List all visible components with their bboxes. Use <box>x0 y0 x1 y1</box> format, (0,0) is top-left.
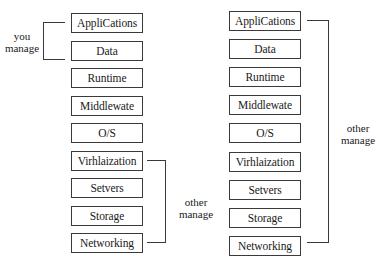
left-layer-servers: Setvers <box>71 178 143 198</box>
left-layer-networking: Networking <box>71 233 143 253</box>
layer-label: Middlewate <box>238 99 292 111</box>
you-manage-bracket-top <box>43 22 65 23</box>
left-other-manage-bracket-top <box>147 160 166 161</box>
right-layer-networking: Networking <box>229 236 301 256</box>
right-other-manage-bracket-bottom <box>307 242 329 243</box>
left-other-manage-bracket-spine <box>165 160 166 243</box>
layer-label: Virhlaization <box>78 155 137 167</box>
right-layer-virtualization: Virhlaization <box>229 152 301 172</box>
layer-label: Runtime <box>88 72 127 84</box>
layer-label: Virhlaization <box>236 156 295 168</box>
you-manage-bracket-spine <box>43 22 44 60</box>
left-other-manage-label-line1: other <box>173 196 219 208</box>
you-manage-bracket-bottom <box>43 59 65 60</box>
right-other-manage-label-line2: manage <box>336 134 380 146</box>
left-layer-data: Data <box>71 41 143 61</box>
right-other-manage-bracket-spine <box>328 20 329 243</box>
layer-label: AppliCations <box>235 15 295 27</box>
you-manage-label: you manage <box>2 30 42 54</box>
layer-label: Runtime <box>246 71 285 83</box>
layer-label: Networking <box>238 240 292 252</box>
right-layer-middleware: Middlewate <box>229 95 301 115</box>
layer-label: Data <box>254 43 275 55</box>
layer-label: Storage <box>248 212 282 224</box>
you-manage-label-line2: manage <box>2 42 42 54</box>
left-layer-runtime: Runtime <box>71 68 143 88</box>
right-other-manage-label-line1: other <box>336 122 380 134</box>
left-layer-middleware: Middlewate <box>71 96 143 116</box>
right-layer-applications: AppliCations <box>229 11 301 31</box>
layer-label: O/S <box>98 127 116 139</box>
layer-label: Middlewate <box>80 100 134 112</box>
layer-label: AppliCations <box>77 17 137 29</box>
layer-label: Storage <box>90 210 124 222</box>
layer-label: Data <box>96 45 117 57</box>
left-layer-storage: Storage <box>71 206 143 226</box>
right-other-manage-bracket-top <box>307 20 329 21</box>
right-other-manage-label: other manage <box>336 122 380 146</box>
layer-label: O/S <box>256 127 274 139</box>
right-layer-os: O/S <box>229 123 301 143</box>
left-layer-os: O/S <box>71 123 143 143</box>
left-other-manage-bracket-bottom <box>147 242 166 243</box>
left-other-manage-label-line2: manage <box>173 208 219 220</box>
right-layer-data: Data <box>229 39 301 59</box>
layer-label: Networking <box>80 237 134 249</box>
layer-label: Setvers <box>248 184 281 196</box>
right-layer-servers: Setvers <box>229 180 301 200</box>
right-layer-runtime: Runtime <box>229 67 301 87</box>
left-layer-applications: AppliCations <box>71 13 143 33</box>
left-other-manage-label: other manage <box>173 196 219 220</box>
right-layer-storage: Storage <box>229 208 301 228</box>
you-manage-label-line1: you <box>2 30 42 42</box>
left-layer-virtualization: Virhlaization <box>71 151 143 171</box>
layer-label: Setvers <box>90 182 123 194</box>
